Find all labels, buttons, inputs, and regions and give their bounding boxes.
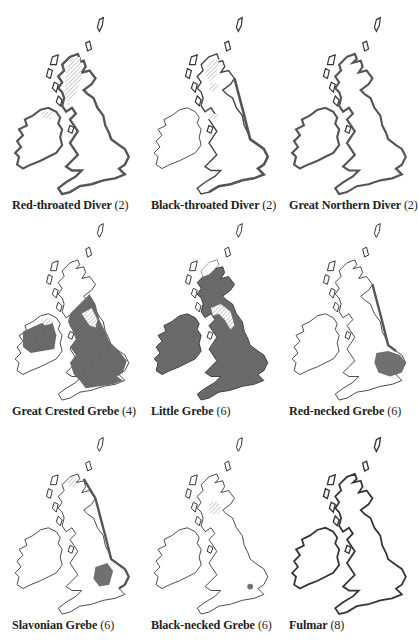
figure-caption: Red-necked Grebe (6): [289, 404, 401, 419]
figure-caption: Slavonian Grebe (6): [12, 618, 114, 633]
map-figure: Little Grebe (6): [139, 206, 278, 420]
figure-caption: Great Crested Grebe (4): [12, 404, 136, 419]
distribution-map: [0, 206, 139, 402]
distribution-map: [277, 206, 416, 402]
distribution-map: [139, 420, 278, 616]
map-figure: Fulmar (8): [277, 420, 416, 634]
distribution-map: [277, 420, 416, 616]
map-figure: Great Northern Diver (2): [277, 0, 416, 214]
map-figure: Black-throated Diver (2): [139, 0, 278, 214]
distribution-map: [139, 0, 278, 196]
figure-caption: Black-necked Grebe (6): [151, 618, 272, 633]
distribution-map: [139, 206, 278, 402]
distribution-map: [277, 0, 416, 196]
distribution-map: [0, 0, 139, 196]
figure-caption: Fulmar (8): [289, 618, 344, 633]
map-figure: Red-necked Grebe (6): [277, 206, 416, 420]
map-figure: Black-necked Grebe (6): [139, 420, 278, 634]
map-figure: Slavonian Grebe (6): [0, 420, 139, 634]
map-figure: Great Crested Grebe (4): [0, 206, 139, 420]
figure-caption: Little Grebe (6): [151, 404, 230, 419]
map-figure: Red-throated Diver (2): [0, 0, 139, 214]
distribution-map: [0, 420, 139, 616]
